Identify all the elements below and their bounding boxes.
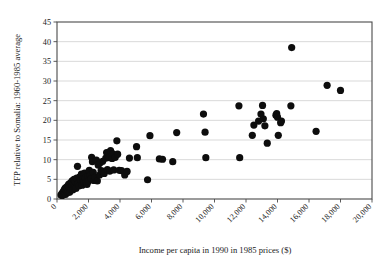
y-axis-title: TFP relative to Somalia: 1960-1985 avera… (12, 34, 22, 186)
scatter-plot-svg: 051015202530354045 02,0004,0006,0008,000… (0, 0, 392, 264)
data-point (113, 137, 120, 144)
x-tick-label: 4,000 (102, 202, 121, 221)
data-point (275, 132, 282, 139)
data-point (287, 102, 294, 109)
x-tick-label: 12,000 (225, 202, 247, 224)
y-axis-tick-labels: 051015202530354045 (43, 18, 51, 204)
x-tick-label: 18,000 (320, 202, 342, 224)
y-tick-label: 30 (43, 77, 51, 86)
y-tick-label: 15 (43, 136, 51, 145)
y-tick-label: 40 (43, 38, 51, 47)
data-point (261, 122, 268, 129)
x-tick-label: 2,000 (71, 202, 90, 221)
data-point (126, 154, 133, 161)
data-point (146, 132, 153, 139)
data-point (236, 154, 243, 161)
data-point (144, 176, 151, 183)
data-point (249, 132, 256, 139)
data-point (324, 82, 331, 89)
x-tick-label: 6,000 (134, 202, 153, 221)
data-point (288, 44, 295, 51)
data-point (278, 118, 285, 125)
data-point (200, 110, 207, 117)
x-tick-label: 0 (49, 202, 58, 211)
data-point (312, 128, 319, 135)
data-point (201, 129, 208, 136)
data-points-group (57, 44, 344, 199)
data-point (114, 151, 121, 158)
data-point (123, 168, 130, 175)
y-tick-label: 20 (43, 116, 51, 125)
data-point (235, 102, 242, 109)
scatter-chart-figure: 051015202530354045 02,0004,0006,0008,000… (0, 0, 392, 264)
x-tick-label: 16,000 (288, 202, 310, 224)
y-tick-label: 10 (43, 156, 51, 165)
data-point (159, 156, 166, 163)
y-tick-label: 25 (43, 97, 51, 106)
data-point (260, 115, 267, 122)
data-point (173, 129, 180, 136)
x-axis-title: Income per capita in 1990 in 1985 prices… (139, 245, 292, 255)
data-point (337, 87, 344, 94)
data-point (133, 143, 140, 150)
data-point (74, 163, 81, 170)
y-tick-label: 35 (43, 57, 51, 66)
data-point (202, 154, 209, 161)
x-tick-label: 8,000 (165, 202, 184, 221)
data-point (169, 158, 176, 165)
data-point (259, 102, 266, 109)
x-tick-label: 14,000 (257, 202, 279, 224)
y-tick-label: 5 (47, 175, 51, 184)
x-tick-label: 10,000 (194, 202, 216, 224)
y-tick-label: 45 (43, 18, 51, 27)
data-point (264, 140, 271, 147)
x-axis-tick-labels: 02,0004,0006,0008,00010,00012,00014,0001… (49, 202, 373, 224)
data-point (134, 154, 141, 161)
x-tick-label: 20,000 (351, 202, 373, 224)
